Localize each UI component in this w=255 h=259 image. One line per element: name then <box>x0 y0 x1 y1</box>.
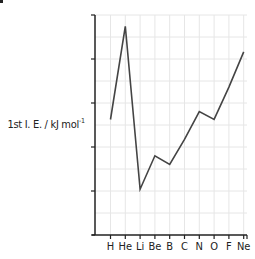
x-tick-labels: HHeLiBeBCNOFNe <box>107 240 251 253</box>
y-axis-label: 1st I. E. / kJ mol-1 <box>0 117 92 131</box>
y-axis-label-exponent: -1 <box>79 117 85 125</box>
x-tick-label: Li <box>136 240 144 253</box>
x-tick-label: C <box>181 240 188 253</box>
x-tick-label: Be <box>148 240 161 253</box>
x-tick-label: B <box>166 240 173 253</box>
x-tick-label: Ne <box>237 240 251 253</box>
axes <box>91 15 247 239</box>
x-tick-label: He <box>119 240 133 253</box>
ionisation-energy-line <box>111 26 244 189</box>
grid-lines <box>95 15 247 235</box>
x-tick-label: H <box>107 240 114 253</box>
x-tick-label: O <box>210 240 218 253</box>
x-tick-label: N <box>196 240 203 253</box>
y-axis-label-text: 1st I. E. / kJ mol <box>7 118 79 131</box>
x-tick-label: F <box>226 240 232 253</box>
